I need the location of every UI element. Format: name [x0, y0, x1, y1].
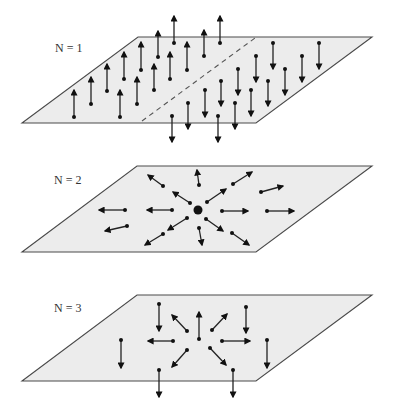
arrow-tail-dot	[208, 346, 212, 350]
arrow-tail-dot	[122, 77, 126, 81]
arrow-tail-dot	[172, 41, 176, 45]
arrow-tail-dot	[186, 101, 190, 105]
center-singularity-dot	[194, 206, 203, 215]
arrow-tail-dot	[188, 201, 192, 205]
arrow-tail-dot	[210, 328, 214, 332]
arrow-tail-dot	[123, 208, 127, 212]
arrow-tail-dot	[197, 226, 201, 230]
arrow-tail-dot	[161, 184, 165, 188]
arrow-tail-dot	[259, 190, 263, 194]
arrow-tail-dot	[135, 102, 139, 106]
arrow-tail-dot	[170, 114, 174, 118]
arrow-tail-dot	[125, 224, 129, 228]
arrow-tail-dot	[231, 182, 235, 186]
arrow-tail-dot	[157, 302, 161, 306]
arrow-tail-dot	[152, 88, 156, 92]
arrow-tail-dot	[254, 54, 258, 58]
arrow-tail-dot	[171, 339, 175, 343]
arrow-tail-dot	[271, 41, 275, 45]
arrow-tail-dot	[170, 208, 174, 212]
arrow-tail-dot	[185, 68, 189, 72]
arrow-tail-dot	[283, 67, 287, 71]
arrow-tail-dot	[203, 88, 207, 92]
arrow-tail-dot	[219, 79, 223, 83]
arrow-tail-dot	[157, 368, 161, 372]
vector-field-diagram: N = 1 N = 2 N = 3	[0, 0, 394, 419]
arrow-tail-dot	[204, 217, 208, 221]
arrow-tail-dot	[300, 54, 304, 58]
label-n3: N = 3	[54, 301, 81, 315]
label-n2: N = 2	[54, 173, 81, 187]
arrow-tail-dot	[161, 232, 165, 236]
arrow-tail-dot	[249, 88, 253, 92]
arrow-tail-dot	[220, 339, 224, 343]
arrow-tail-dot	[233, 101, 237, 105]
arrow-tail-dot	[118, 115, 122, 119]
arrow-tail-dot	[317, 41, 321, 45]
arrow-tail-dot	[168, 77, 172, 81]
arrow-tail-dot	[185, 348, 189, 352]
arrow-tail-dot	[197, 183, 201, 187]
arrow-tail-dot	[231, 368, 235, 372]
arrow-tail-dot	[185, 329, 189, 333]
arrow-tail-dot	[202, 54, 206, 58]
arrow-tail-dot	[265, 209, 269, 213]
arrow-tail-dot	[89, 102, 93, 106]
arrow-tail-dot	[244, 305, 248, 309]
arrow-tail-dot	[218, 41, 222, 45]
arrow-tail-dot	[266, 79, 270, 83]
arrow-tail-dot	[216, 114, 220, 118]
panel-n1	[22, 16, 372, 142]
arrow-tail-dot	[220, 209, 224, 213]
arrow-tail-dot	[72, 115, 76, 119]
arrow-tail-dot	[205, 200, 209, 204]
arrow-tail-dot	[105, 89, 109, 93]
arrow-tail-dot	[197, 337, 201, 341]
arrow-tail-dot	[265, 338, 269, 342]
arrow-tail-dot	[230, 231, 234, 235]
arrow-tail-dot	[156, 55, 160, 59]
arrow-tail-dot	[185, 216, 189, 220]
label-n1: N = 1	[55, 41, 82, 55]
arrow-tail-dot	[119, 338, 123, 342]
arrow-tail-dot	[139, 68, 143, 72]
arrow-tail-dot	[236, 67, 240, 71]
